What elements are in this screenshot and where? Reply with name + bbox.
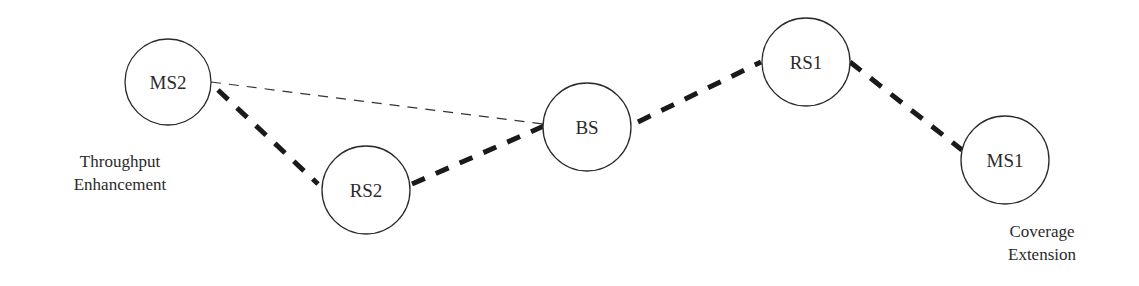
- link-rs2-bs: [412, 126, 544, 184]
- coverage-line1: Coverage: [996, 220, 1088, 243]
- link-rs1-ms1: [850, 62, 962, 150]
- coverage-extension-label: Coverage Extension: [996, 220, 1088, 266]
- coverage-line2: Extension: [996, 243, 1088, 266]
- throughput-enhancement-label: Throughput Enhancement: [58, 150, 182, 196]
- node-ms1: MS1: [961, 116, 1049, 204]
- link-ms2-bs: [211, 82, 543, 124]
- relay-network-diagram: MS2 RS2 BS RS1 MS1: [0, 0, 1139, 286]
- node-rs1-label: RS1: [790, 52, 823, 73]
- node-rs2: RS2: [322, 146, 410, 234]
- link-ms2-rs2: [218, 90, 318, 184]
- throughput-line1: Throughput: [58, 150, 182, 173]
- node-bs-label: BS: [575, 117, 598, 138]
- throughput-line2: Enhancement: [58, 173, 182, 196]
- node-ms2: MS2: [125, 39, 211, 125]
- node-rs1: RS1: [762, 18, 850, 106]
- node-rs2-label: RS2: [350, 180, 383, 201]
- node-ms1-label: MS1: [987, 150, 1024, 171]
- node-bs: BS: [543, 83, 631, 171]
- node-ms2-label: MS2: [150, 72, 187, 93]
- link-bs-rs1: [638, 62, 761, 122]
